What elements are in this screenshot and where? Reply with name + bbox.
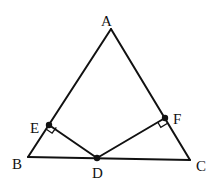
segment-df	[97, 118, 165, 158]
label-b: B	[12, 156, 22, 172]
point-e-dot	[46, 122, 52, 128]
label-f: F	[173, 111, 181, 127]
label-a: A	[101, 13, 112, 29]
point-f-dot	[162, 115, 168, 121]
label-e: E	[30, 120, 39, 136]
label-c: C	[196, 158, 206, 174]
label-d: D	[92, 165, 103, 181]
segment-ab	[28, 29, 111, 157]
segment-de	[49, 125, 97, 158]
right-angle-mark-f	[158, 122, 168, 127]
segment-bc	[28, 157, 190, 160]
segment-ac	[111, 29, 190, 160]
triangle-diagram: A B C D E F	[0, 0, 217, 189]
point-d-dot	[94, 155, 100, 161]
